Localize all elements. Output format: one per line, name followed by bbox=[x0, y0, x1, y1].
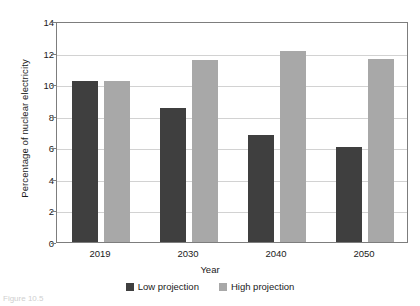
y-axis-tick-label: 14 bbox=[14, 17, 54, 28]
legend-item-low-projection: Low projection bbox=[126, 281, 199, 292]
bar-high-projection-2019 bbox=[104, 81, 130, 242]
y-axis-tick-mark bbox=[51, 243, 56, 244]
legend-label: High projection bbox=[231, 281, 294, 292]
y-axis-tick-label: 10 bbox=[14, 80, 54, 91]
figure-caption: Figure 10.5 bbox=[3, 294, 43, 303]
y-axis-tick-label: 4 bbox=[14, 174, 54, 185]
x-axis-tick-label-2030: 2030 bbox=[177, 248, 198, 259]
legend-swatch-icon bbox=[219, 283, 227, 291]
legend-item-high-projection: High projection bbox=[219, 281, 294, 292]
plot-area bbox=[56, 22, 408, 243]
y-axis-tick-label: 12 bbox=[14, 48, 54, 59]
bar-low-projection-2030 bbox=[160, 108, 186, 242]
y-axis-tick-label: 8 bbox=[14, 111, 54, 122]
legend-swatch-icon bbox=[126, 283, 134, 291]
x-axis-tick-label-2019: 2019 bbox=[89, 248, 110, 259]
figure-nuclear-electricity-projection: Percentage of nuclear electricity 024681… bbox=[0, 0, 420, 306]
legend-label: Low projection bbox=[138, 281, 199, 292]
x-axis-tick-label-2040: 2040 bbox=[265, 248, 286, 259]
x-axis-tick-label-2050: 2050 bbox=[353, 248, 374, 259]
bar-high-projection-2050 bbox=[368, 59, 394, 242]
y-axis-tick-label: 0 bbox=[14, 238, 54, 249]
x-axis-title: Year bbox=[0, 264, 420, 275]
bar-high-projection-2040 bbox=[280, 51, 306, 242]
gridline bbox=[57, 55, 407, 56]
bar-low-projection-2019 bbox=[72, 81, 98, 242]
bar-high-projection-2030 bbox=[192, 60, 218, 242]
bar-low-projection-2050 bbox=[336, 147, 362, 242]
chart-legend: Low projectionHigh projection bbox=[0, 281, 420, 292]
y-axis-tick-label: 2 bbox=[14, 206, 54, 217]
bar-low-projection-2040 bbox=[248, 135, 274, 242]
y-axis-tick-label: 6 bbox=[14, 143, 54, 154]
